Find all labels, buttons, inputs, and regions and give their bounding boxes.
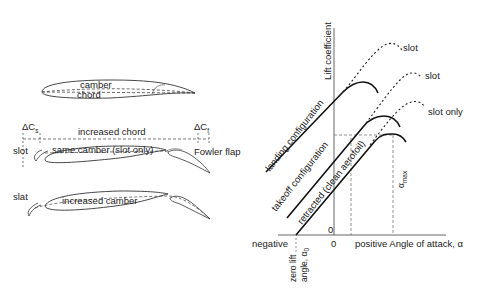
zero-lift-label-2: angle, α0 — [299, 248, 310, 282]
slot-only-label: slot only — [428, 106, 463, 117]
y-zero-label: 0 — [328, 224, 333, 235]
slot-slat-piece — [34, 150, 48, 161]
increased-camber-label: increased camber — [62, 195, 138, 206]
slot-label: slot — [13, 145, 28, 156]
slat-piece — [28, 203, 41, 216]
x-positive-label: positive Angle of attack, α — [355, 238, 463, 249]
slot-landing-label: slot — [403, 42, 418, 53]
slot-fowler-airfoil: ΔCs ΔCf increased chord slot same camber… — [13, 121, 240, 173]
basic-airfoil: camber chord — [42, 79, 195, 100]
x-zero-label: 0 — [331, 238, 336, 249]
x-negative-label: negative — [252, 238, 288, 249]
chord-label: chord — [77, 89, 101, 100]
alpha-max-label: αmax — [396, 170, 408, 188]
y-axis-label: Lift coefficient — [322, 22, 333, 80]
retracted-label: retracted (clean aerofoil) — [295, 138, 367, 226]
diagram-canvas: camber chord ΔCs ΔCf increased chord slo… — [0, 0, 483, 299]
fowler-flap-label: Fowler flap — [194, 146, 240, 157]
slat-airfoil: slat increased camber — [13, 191, 210, 219]
chord-line — [42, 92, 195, 93]
zero-lift-label-1: zero lift — [288, 254, 298, 282]
same-camber-label: same camber (slot only) — [52, 144, 153, 155]
increased-chord-label: increased chord — [78, 126, 146, 137]
slat-flap — [170, 196, 210, 219]
lift-chart: Lift coefficient landing configuration t… — [252, 22, 463, 282]
slot-takeoff-label: slot — [425, 70, 440, 81]
slat-label: slat — [13, 191, 28, 202]
delta-cf-label: ΔCf — [194, 121, 209, 134]
delta-cs-label: ΔCs — [22, 121, 39, 134]
